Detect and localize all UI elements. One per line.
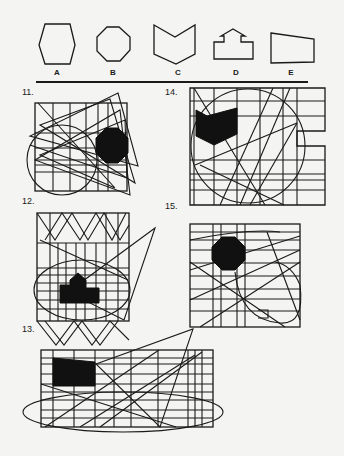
choice-label-a: A — [51, 68, 63, 77]
question-13-number: 13. — [22, 324, 35, 334]
worksheet-page: A B C D E 11. 12. 13. 14. 15. — [0, 0, 344, 456]
choice-a-hexagon-icon — [39, 24, 75, 64]
choice-e-trapezoid-icon — [271, 33, 314, 63]
choice-d-arrow-house-icon — [214, 29, 253, 59]
figure-12 — [34, 213, 155, 345]
choice-label-d: D — [230, 68, 242, 77]
choice-c-chevron-icon — [154, 25, 195, 64]
question-12-number: 12. — [22, 196, 35, 206]
figure-13 — [23, 329, 223, 432]
choice-label-c: C — [172, 68, 184, 77]
choice-label-b: B — [107, 68, 119, 77]
question-14-number: 14. — [165, 87, 178, 97]
figure-15 — [190, 224, 301, 327]
figure-14 — [190, 88, 325, 205]
choice-b-octagon-icon — [97, 27, 130, 61]
question-11-number: 11. — [22, 87, 34, 97]
figure-11 — [27, 93, 138, 195]
choice-label-e: E — [285, 68, 297, 77]
question-15-number: 15. — [165, 201, 178, 211]
section-divider — [36, 81, 308, 83]
